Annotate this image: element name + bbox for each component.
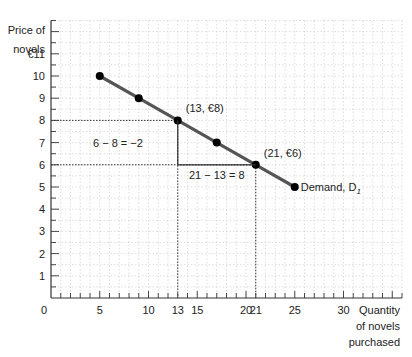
- y-tick-label: 9: [39, 92, 45, 104]
- x-tick-label: 10: [142, 304, 154, 316]
- x-tick-label: 13: [172, 304, 184, 316]
- x-axis-label: Quantity: [359, 304, 400, 316]
- y-tick-label: 4: [39, 203, 45, 215]
- x-axis-label: of novels: [356, 320, 401, 332]
- demand-curve-chart: 051013152021253012345678910€11 (13, €8)(…: [0, 0, 412, 357]
- data-point: [213, 139, 221, 147]
- y-tick-label: 8: [39, 114, 45, 126]
- data-point: [96, 72, 104, 80]
- point-label-13-8: (13, €8): [186, 102, 224, 114]
- x-tick-label: 25: [289, 304, 301, 316]
- demand-label: Demand, D1: [301, 181, 361, 196]
- run-label: 21 − 13 = 8: [189, 169, 245, 181]
- data-point: [291, 183, 299, 191]
- y-tick-label: 5: [39, 181, 45, 193]
- rise-label: 6 − 8 = −2: [93, 137, 143, 149]
- y-tick-label: 1: [39, 270, 45, 282]
- y-axis-label: novels: [13, 43, 45, 55]
- grid: [51, 21, 402, 299]
- y-axis-label: Price of: [8, 24, 46, 36]
- x-tick-label: 15: [191, 304, 203, 316]
- x-tick-label: 0: [41, 304, 47, 316]
- point-label-21-6: (21, €6): [264, 147, 302, 159]
- data-point: [135, 94, 143, 102]
- x-axis-label: purchased: [349, 336, 400, 348]
- x-tick-label: 5: [97, 304, 103, 316]
- y-tick-label: 10: [33, 70, 45, 82]
- x-tick-label: 30: [337, 304, 349, 316]
- x-tick-label: 21: [250, 304, 262, 316]
- y-tick-label: 7: [39, 137, 45, 149]
- y-tick-label: 6: [39, 159, 45, 171]
- y-tick-label: 2: [39, 248, 45, 260]
- y-tick-label: 3: [39, 225, 45, 237]
